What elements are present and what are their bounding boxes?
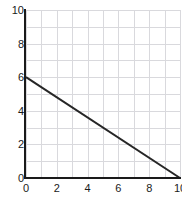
x-axis-tick-label: 4: [78, 183, 98, 194]
plot-area: [26, 10, 180, 178]
y-axis-tick-label: 2: [4, 139, 24, 150]
x-axis-tick-label: 6: [108, 183, 128, 194]
x-axis-tick-label: 8: [139, 183, 159, 194]
x-axis-tick-label: 10: [170, 183, 182, 194]
x-axis-tick-label: 2: [47, 183, 67, 194]
y-axis-tick-label: 4: [4, 106, 24, 117]
y-axis-tick-label: 8: [4, 39, 24, 50]
y-axis-line: [24, 9, 26, 179]
x-axis-line: [24, 177, 181, 179]
line-series-path: [26, 77, 180, 178]
y-axis-tick-label: 6: [4, 72, 24, 83]
y-axis-tick-label: 10: [4, 5, 24, 16]
x-axis-tick-label: 0: [16, 183, 36, 194]
chart-container: 0246810 0246810: [0, 0, 182, 199]
data-series-layer: [26, 10, 180, 178]
gridline-vertical: [180, 10, 181, 178]
